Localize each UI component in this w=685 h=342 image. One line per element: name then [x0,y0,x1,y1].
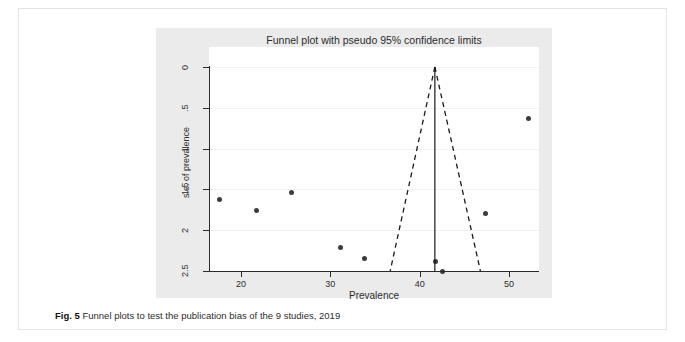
pseudo-95-confidence-funnel [19,9,668,331]
figure-caption: Fig. 5 Funnel plots to test the publicat… [55,310,655,322]
figure-card: Funnel plot with pseudo 95% confidence l… [18,8,667,330]
funnel-left-limit-line [390,67,435,271]
figure-caption-text: Funnel plots to test the publication bia… [82,310,340,321]
funnel-right-limit-line [435,67,481,271]
figure-caption-prefix: Fig. 5 [55,310,80,321]
